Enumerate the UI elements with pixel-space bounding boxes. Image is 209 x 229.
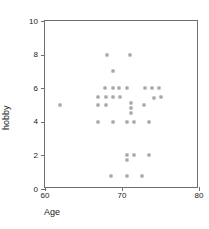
data-point: [97, 95, 100, 98]
data-point: [151, 87, 154, 90]
data-point: [141, 174, 144, 177]
data-point: [97, 104, 100, 107]
data-point: [132, 154, 135, 157]
data-point: [111, 95, 114, 98]
data-point: [111, 120, 114, 123]
data-point: [125, 174, 128, 177]
y-tick-label: 2: [34, 152, 38, 160]
data-point: [143, 104, 146, 107]
x-tick-label: 80: [195, 192, 204, 200]
data-point: [157, 87, 160, 90]
data-point: [104, 87, 107, 90]
y-tick: 10: [41, 21, 45, 22]
data-point: [125, 154, 128, 157]
data-point: [119, 95, 122, 98]
data-point: [147, 120, 150, 123]
x-tick-label: 70: [118, 192, 127, 200]
data-point: [97, 120, 100, 123]
y-tick-label: 0: [34, 186, 38, 194]
scatter-plot-figure: 0246810 607080 Age hobby: [0, 0, 209, 229]
x-tick-label: 60: [41, 192, 50, 200]
data-point: [58, 104, 61, 107]
data-point: [144, 87, 147, 90]
y-tick-label: 8: [34, 51, 38, 59]
data-point: [104, 104, 107, 107]
data-point: [104, 95, 107, 98]
data-point: [159, 95, 162, 98]
x-axis-title: Age: [44, 208, 60, 217]
data-point: [130, 112, 133, 115]
data-point: [128, 53, 131, 56]
y-axis-title: hobby: [2, 105, 11, 130]
y-tick: 4: [41, 122, 45, 123]
data-point: [111, 70, 114, 73]
data-point: [117, 87, 120, 90]
y-tick-label: 4: [34, 118, 38, 126]
data-point: [111, 87, 114, 90]
data-point: [125, 87, 128, 90]
y-tick: 8: [41, 55, 45, 56]
data-point: [153, 97, 156, 100]
plot-area: 0246810 607080: [44, 20, 198, 188]
y-tick-label: 10: [29, 18, 38, 26]
data-point: [125, 120, 128, 123]
data-point: [133, 120, 136, 123]
data-point: [110, 174, 113, 177]
data-point: [125, 159, 128, 162]
data-point: [130, 107, 133, 110]
data-point: [130, 102, 133, 105]
data-point: [147, 154, 150, 157]
data-points-layer: [45, 21, 197, 187]
y-tick: 6: [41, 88, 45, 89]
y-tick: 2: [41, 155, 45, 156]
data-point: [105, 53, 108, 56]
y-tick-label: 6: [34, 85, 38, 93]
